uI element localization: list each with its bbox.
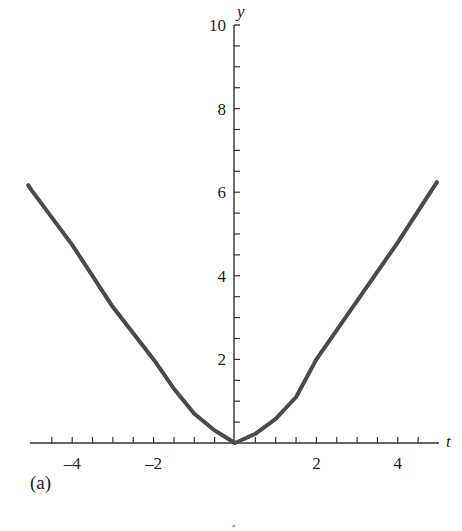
y-tick-label: 4 <box>218 267 227 286</box>
x-tick-label: 4 <box>394 454 403 473</box>
data-curve <box>28 182 437 443</box>
x-tick-label: –4 <box>63 454 82 473</box>
y-tick-label: 8 <box>218 100 227 119</box>
y-tick-label: 10 <box>209 16 226 35</box>
y-axis-label: y <box>235 2 245 21</box>
x-tick-label: –2 <box>144 454 162 473</box>
ticks <box>52 46 418 443</box>
y-tick-label: 6 <box>218 183 227 202</box>
tick-labels: –4–224246810 <box>63 16 403 473</box>
x-tick-label: 2 <box>312 454 321 473</box>
cropped-glyph-fragment: ′′ <box>232 523 234 531</box>
y-tick-label: 2 <box>218 350 227 369</box>
chart-plot: –4–224246810 t y <box>0 0 462 531</box>
panel-label: (a) <box>30 472 51 494</box>
x-axis-label: t <box>446 432 452 451</box>
